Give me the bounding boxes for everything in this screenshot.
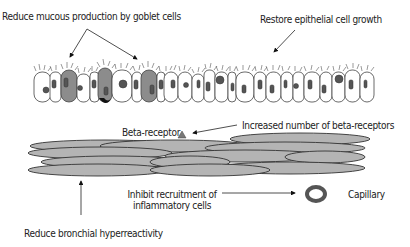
inhibit-recruitment-line1: Inhibit recruitment of	[118, 189, 226, 200]
increased-beta-arrow	[193, 125, 237, 133]
epithelial-growth-label: Restore epithelial cell growth	[260, 14, 382, 25]
beta-receptor-label: Beta-receptor	[122, 127, 180, 138]
capillary-label: Capillary	[348, 189, 385, 200]
smooth-muscle-layer	[28, 133, 370, 176]
goblet-cells-label: Reduce mucous production by goblet cells	[2, 11, 181, 22]
cilia	[34, 59, 374, 73]
increased-beta-receptors-label: Increased number of beta-receptors	[242, 120, 394, 131]
epithelial-arrow	[274, 30, 295, 52]
capillary-icon	[307, 187, 325, 201]
goblet-arrow-left	[70, 29, 87, 57]
goblet-arrow-right	[87, 29, 137, 59]
bronchial-hyperreactivity-label: Reduce bronchial hyperreactivity	[24, 228, 163, 239]
inhibit-recruitment-label: Inhibit recruitment of inflammatory cell…	[118, 189, 226, 211]
epithelium-layer	[34, 59, 374, 103]
inhibit-recruitment-line2: inflammatory cells	[118, 200, 226, 211]
